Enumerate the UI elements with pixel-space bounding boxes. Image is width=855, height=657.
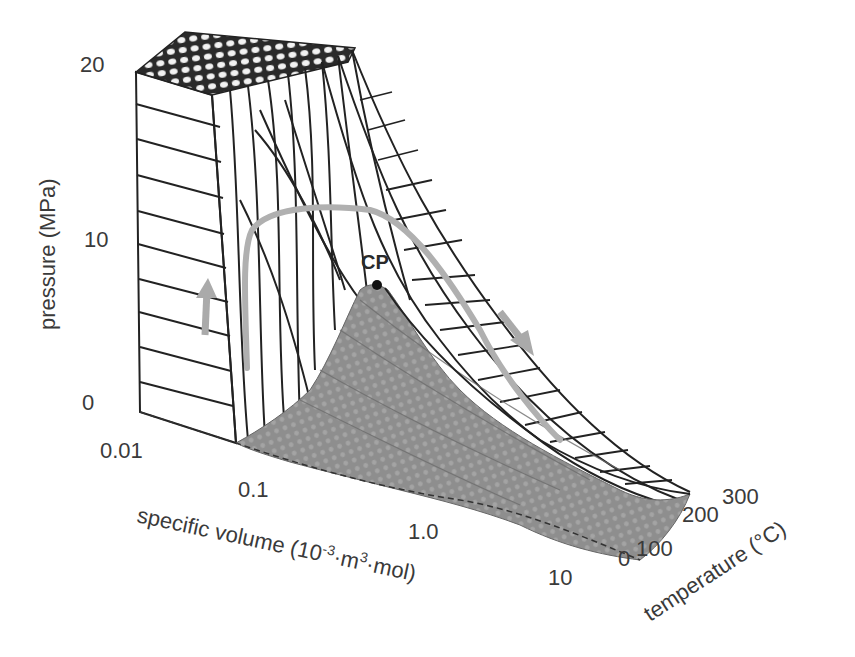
svg-text:pressure (MPa): pressure (MPa): [35, 178, 60, 330]
svg-text:specific volume (10-3·m3·mol): specific volume (10-3·m3·mol): [135, 501, 419, 586]
svg-text:300: 300: [722, 484, 759, 509]
liquid-face: [136, 72, 236, 443]
svg-text:0: 0: [618, 546, 630, 571]
pressure-axis: 20 10 0 pressure (MPa): [35, 52, 108, 415]
svg-text:10: 10: [548, 565, 572, 590]
pvt-surface-chart: CP 20 10 0 pressure (MPa) 0.01 0.1 1.0 1…: [0, 0, 855, 657]
svg-text:100: 100: [636, 536, 673, 561]
two-phase-dome: [236, 285, 690, 560]
svg-text:0.01: 0.01: [100, 438, 143, 463]
critical-point-label: CP: [361, 251, 389, 273]
svg-text:200: 200: [682, 502, 719, 527]
svg-text:1.0: 1.0: [408, 519, 439, 544]
svg-text:0: 0: [82, 390, 94, 415]
svg-text:0.1: 0.1: [238, 477, 269, 502]
svg-text:10: 10: [84, 227, 108, 252]
svg-text:20: 20: [80, 52, 104, 77]
arrow-down-right-icon: [500, 312, 534, 356]
critical-point-marker: [372, 280, 382, 290]
